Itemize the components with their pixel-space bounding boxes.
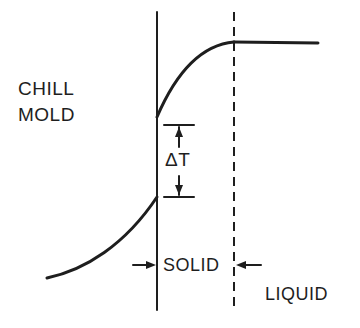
liquid-label: LIQUID: [265, 282, 328, 306]
delta-t-up-arrowhead: [175, 127, 183, 137]
solid-right-pointing-arrowhead: [146, 261, 156, 269]
delta-t-label: ΔT: [165, 148, 190, 172]
delta-t-down-arrowhead: [175, 185, 183, 195]
solid-left-pointing-arrowhead: [236, 261, 246, 269]
chill-mold-temperature-diagram: CHILL MOLD ΔT SOLID LIQUID: [0, 0, 360, 328]
liquid-temperature-line: [234, 42, 318, 43]
mold-label: MOLD: [18, 103, 75, 127]
solid-temperature-curve: [157, 42, 234, 117]
chill-label: CHILL: [18, 77, 74, 101]
solid-label: SOLID: [163, 253, 220, 277]
